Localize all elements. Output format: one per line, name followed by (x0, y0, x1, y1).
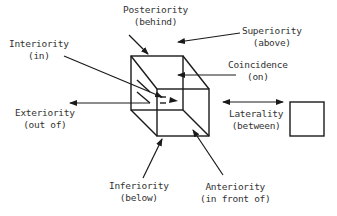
label-inferiority: Inferiority (below) (109, 180, 169, 204)
exteriority-gloss: (out of) (15, 119, 75, 131)
label-interiority: Interiority (in) (9, 38, 69, 62)
label-superiority: Superiority (above) (242, 25, 302, 49)
interior-hatch (137, 80, 166, 103)
posteriority-arrow (129, 35, 148, 54)
interiority-arrowhead (169, 97, 178, 103)
inferiority-gloss: (below) (109, 192, 169, 204)
anteriority-term: Anteriority (200, 181, 270, 193)
exteriority-term: Exteriority (15, 107, 75, 119)
posteriority-term: Posteriority (123, 4, 188, 16)
label-coincidence: Coincidence (on) (228, 59, 288, 83)
laterality-gloss: (between) (229, 120, 283, 132)
inferiority-arrow (143, 139, 162, 178)
inferiority-term: Inferiority (109, 180, 169, 192)
superiority-arrow (178, 33, 240, 42)
coincidence-term: Coincidence (228, 59, 288, 71)
label-anteriority: Anteriority (in front of) (200, 181, 270, 205)
interiority-term: Interiority (9, 38, 69, 50)
superiority-term: Superiority (242, 25, 302, 37)
label-laterality: Laterality (between) (229, 108, 283, 132)
laterality-term: Laterality (229, 108, 283, 120)
anteriority-gloss: (in front of) (200, 193, 270, 205)
coincidence-gloss: (on) (228, 71, 288, 83)
posteriority-gloss: (behind) (123, 16, 188, 28)
label-posteriority: Posteriority (behind) (123, 4, 188, 28)
interiority-gloss: (in) (9, 50, 69, 62)
label-exteriority: Exteriority (out of) (15, 107, 75, 131)
anteriority-arrow (193, 130, 223, 175)
superiority-gloss: (above) (242, 37, 302, 49)
adjacent-square (290, 102, 324, 136)
